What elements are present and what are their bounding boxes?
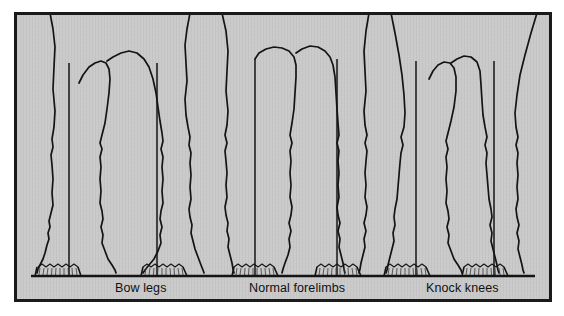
caption-normal-forelimbs: Normal forelimbs (249, 281, 345, 295)
caption-knock-knees: Knock knees (426, 281, 499, 295)
group-bow-legs (35, 15, 204, 277)
caption-bow-legs: Bow legs (115, 281, 167, 295)
figure-frame: Bow legs Normal forelimbs Knock knees (14, 12, 552, 302)
forelimb-conformation-drawing (17, 15, 549, 299)
normal-right-hoof (315, 264, 361, 276)
bow-legs-left-leg-medial-outline (79, 61, 116, 273)
bow-legs-right-leg-lateral-outline (185, 15, 204, 273)
normal-right-hoof-wall (315, 267, 361, 276)
group-knock-knees (384, 15, 537, 277)
knock-knees-left-hoof (384, 264, 430, 276)
bow-legs-left-hoof-hatching (39, 268, 77, 275)
group-normal-forelimbs (222, 15, 369, 277)
knock-knees-left-coronet-band (386, 264, 426, 267)
bow-legs-left-coronet-band (38, 264, 78, 267)
knock-knees-right-hoof-wall (462, 267, 508, 276)
knock-knees-right-hoof (462, 264, 508, 276)
bow-legs-left-hoof (35, 264, 81, 276)
knock-knees-left-hoof-hatching (388, 268, 426, 275)
knock-knees-right-leg-lateral-outline (515, 15, 537, 273)
bow-legs-left-leg-lateral-outline (37, 15, 55, 273)
normal-left-coronet-band (234, 264, 274, 267)
bow-legs-left-hoof-wall (35, 267, 81, 276)
knock-knees-left-leg-lateral-outline (386, 15, 405, 273)
knock-knees-right-leg-medial-outline (451, 56, 499, 273)
bow-legs-right-hoof-hatching (145, 268, 183, 275)
bow-legs-right-hoof-wall (141, 267, 187, 276)
figure-root: Bow legs Normal forelimbs Knock knees (0, 0, 564, 316)
knock-knees-left-hoof-wall (384, 267, 430, 276)
normal-right-hoof-hatching (319, 268, 357, 275)
normal-right-leg-lateral-outline (359, 15, 369, 273)
bow-legs-right-leg-medial-outline (107, 51, 163, 273)
normal-left-leg-medial-outline (255, 47, 296, 273)
knock-knees-left-leg-medial-outline (429, 62, 462, 273)
normal-left-leg-lateral-outline (222, 15, 234, 273)
